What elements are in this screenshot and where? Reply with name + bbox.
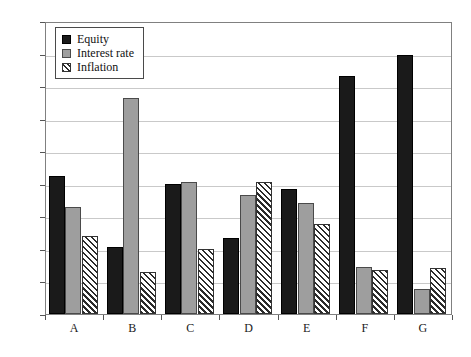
- legend-item-interest-rate: Interest rate: [62, 46, 134, 60]
- bar-g-equity: [397, 55, 413, 314]
- bar-a-equity: [49, 176, 65, 314]
- gridline: [46, 121, 451, 122]
- x-tick-label-e: E: [287, 322, 327, 334]
- x-tick-label-g: G: [403, 322, 443, 334]
- bar-g-interest-rate: [414, 289, 430, 314]
- legend-swatch-icon: [62, 63, 71, 72]
- legend-swatch-icon: [62, 35, 71, 44]
- x-tick-mark: [278, 315, 279, 320]
- legend-item-equity: Equity: [62, 32, 134, 46]
- bar-e-inflation: [314, 224, 330, 314]
- x-tick-mark: [219, 315, 220, 320]
- bar-b-interest-rate: [123, 98, 139, 314]
- gridline: [46, 153, 451, 154]
- y-axis: 0%10%20%30%40%50%60%70%80%90%: [0, 0, 45, 357]
- bar-e-interest-rate: [298, 203, 314, 314]
- legend-item-inflation: Inflation: [62, 60, 134, 74]
- bar-g-inflation: [430, 268, 446, 314]
- legend-label: Equity: [77, 33, 109, 45]
- bar-d-interest-rate: [240, 195, 256, 314]
- bar-c-interest-rate: [181, 182, 197, 314]
- x-tick-mark: [336, 315, 337, 320]
- bar-c-equity: [165, 184, 181, 314]
- bar-d-equity: [223, 238, 239, 315]
- bar-chart: 0%10%20%30%40%50%60%70%80%90% EquityInte…: [0, 0, 471, 357]
- bar-c-inflation: [198, 249, 214, 314]
- legend-label: Inflation: [77, 61, 118, 73]
- bar-f-inflation: [372, 270, 388, 314]
- bar-f-interest-rate: [356, 267, 372, 314]
- gridline: [46, 88, 451, 89]
- x-tick-label-a: A: [54, 322, 94, 334]
- x-tick-label-c: C: [170, 322, 210, 334]
- x-tick-mark: [452, 315, 453, 320]
- bar-d-inflation: [256, 182, 272, 314]
- bar-a-interest-rate: [65, 207, 81, 314]
- gridline: [46, 186, 451, 187]
- x-tick-mark: [103, 315, 104, 320]
- bar-b-inflation: [140, 272, 156, 314]
- x-tick-mark: [394, 315, 395, 320]
- bar-b-equity: [107, 247, 123, 314]
- x-tick-mark: [45, 315, 46, 320]
- legend-swatch-icon: [62, 49, 71, 58]
- x-tick-mark: [161, 315, 162, 320]
- x-tick-label-f: F: [345, 322, 385, 334]
- legend-label: Interest rate: [77, 47, 134, 59]
- x-tick-label-b: B: [112, 322, 152, 334]
- x-tick-label-d: D: [229, 322, 269, 334]
- bar-a-inflation: [82, 236, 98, 314]
- bar-f-equity: [339, 76, 355, 314]
- bar-e-equity: [281, 189, 297, 314]
- chart-legend: EquityInterest rateInflation: [55, 27, 144, 79]
